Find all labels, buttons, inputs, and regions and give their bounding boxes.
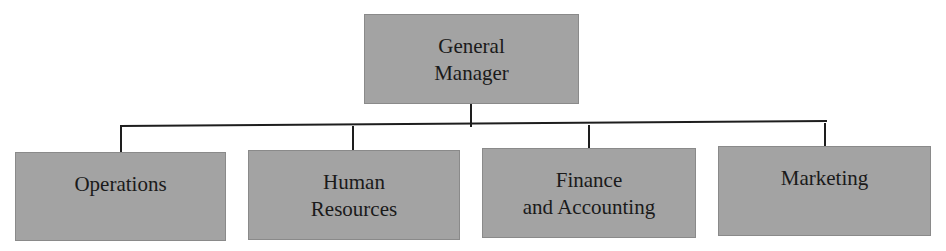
node-label: Marketing bbox=[781, 165, 868, 192]
node-finance-and-accounting: Finance and Accounting bbox=[482, 148, 696, 238]
node-label: Manager bbox=[434, 60, 509, 87]
node-human-resources: Human Resources bbox=[248, 150, 460, 240]
marketing-connector bbox=[824, 123, 826, 146]
node-label: Operations bbox=[74, 171, 166, 198]
node-label: and Accounting bbox=[523, 194, 655, 221]
human-resources-connector bbox=[352, 126, 354, 150]
horizontal-connector bbox=[120, 120, 827, 127]
node-marketing: Marketing bbox=[718, 146, 931, 236]
node-label: Finance bbox=[556, 167, 622, 194]
node-label: General bbox=[438, 33, 504, 60]
node-operations: Operations bbox=[15, 152, 226, 241]
node-label: Resources bbox=[311, 196, 397, 223]
operations-connector bbox=[120, 127, 122, 152]
node-label: Human bbox=[323, 169, 385, 196]
finance-connector bbox=[588, 125, 590, 148]
node-general-manager: General Manager bbox=[364, 14, 579, 104]
